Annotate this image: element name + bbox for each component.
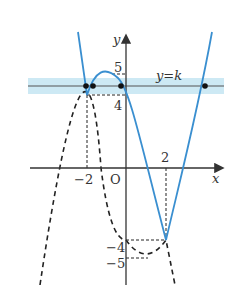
line-label-y-eq-k: y=k [155, 68, 182, 83]
tick-x-2: 2 [161, 150, 169, 165]
y-axis-label: y [112, 32, 121, 47]
tick-x-neg2: −2 [74, 172, 93, 187]
origin-label: O [110, 172, 121, 187]
tick-y-neg4: −4 [106, 240, 125, 255]
tick-y-4: 4 [114, 98, 122, 113]
x-axis-label: x [212, 171, 220, 186]
blue-curve [78, 32, 212, 240]
tick-y-5: 5 [114, 60, 122, 75]
tick-y-neg5: −5 [106, 256, 125, 271]
function-graph: y x O 5 4 −2 2 −4 −5 y=k [0, 0, 241, 295]
